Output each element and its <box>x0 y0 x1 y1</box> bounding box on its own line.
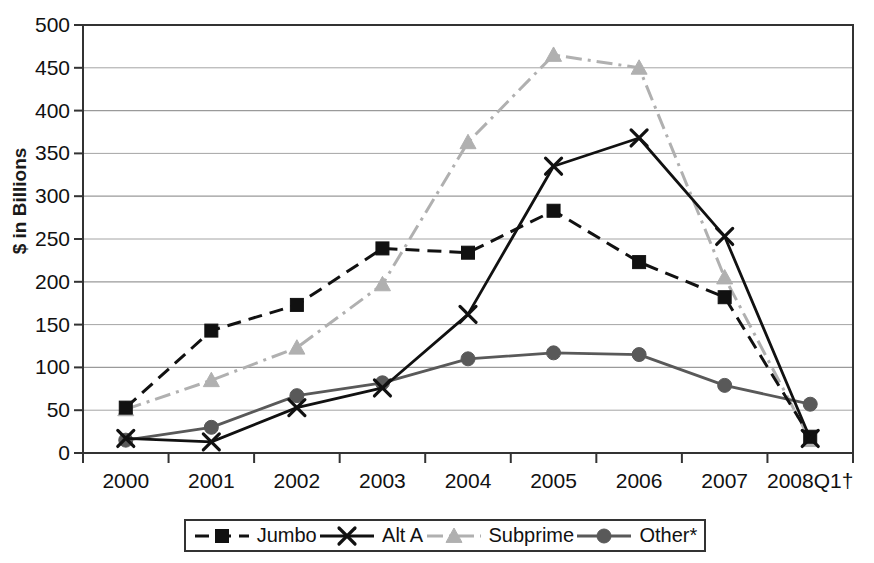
legend-item-jumbo[interactable]: Jumbo <box>193 524 317 547</box>
x-tick-label: 2003 <box>359 469 406 493</box>
x-tick-label: 2006 <box>616 469 663 493</box>
legend-label: Alt A <box>382 524 423 547</box>
legend-item-other-[interactable]: Other* <box>575 524 697 547</box>
chart-legend: JumboAlt ASubprimeOther* <box>184 519 706 552</box>
line-chart: $ in Billions 05010015020025030035040045… <box>0 0 874 563</box>
x-tick-label: 2001 <box>188 469 235 493</box>
x-tick-label: 2000 <box>102 469 149 493</box>
legend-label: Other* <box>639 524 697 547</box>
x-tick-label: 2007 <box>701 469 748 493</box>
legend-label: Subprime <box>489 524 575 547</box>
x-tick-label: 2002 <box>274 469 321 493</box>
legend-swatch-x-icon <box>318 525 376 547</box>
x-tick-label: 2008Q1† <box>767 469 853 493</box>
x-axis-tick-labels: 200020012002200320042005200620072008Q1† <box>0 0 874 563</box>
legend-swatch-square-icon <box>193 525 251 547</box>
legend-label: Jumbo <box>257 524 317 547</box>
legend-item-subprime[interactable]: Subprime <box>425 524 575 547</box>
x-tick-label: 2004 <box>445 469 492 493</box>
legend-swatch-triangle-icon <box>425 525 483 547</box>
legend-item-alt-a[interactable]: Alt A <box>318 524 423 547</box>
x-tick-label: 2005 <box>530 469 577 493</box>
legend-swatch-circle-icon <box>575 525 633 547</box>
